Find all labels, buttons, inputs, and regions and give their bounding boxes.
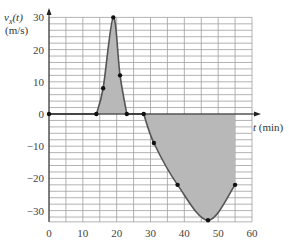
y-tick-label: −30: [27, 205, 45, 217]
data-point: [206, 218, 210, 222]
data-point: [118, 73, 122, 77]
x-axis-arrow-icon: [254, 112, 261, 117]
x-tick-label: 60: [247, 227, 259, 239]
data-point: [152, 141, 156, 145]
data-point: [142, 112, 146, 116]
x-tick-label: 30: [145, 227, 157, 239]
y-tick-label: −20: [27, 172, 45, 184]
data-point: [111, 15, 115, 19]
x-tick-label: 0: [46, 227, 52, 239]
y-tick-label: 20: [33, 44, 45, 56]
data-point: [125, 112, 129, 116]
y-tick-label: 30: [33, 11, 45, 23]
x-axis-label: t (min): [253, 121, 284, 134]
y-tick-label: −10: [27, 140, 45, 152]
y-tick-label: 10: [33, 76, 45, 88]
data-point: [101, 86, 105, 90]
x-tick-label: 20: [111, 227, 123, 239]
data-point: [47, 112, 51, 116]
y-axis-arrow-icon: [47, 8, 52, 15]
velocity-time-chart: 01020304050603020100−10−20−30 vx(t) (m/s…: [0, 0, 289, 242]
y-tick-label: 0: [39, 108, 45, 120]
x-tick-label: 10: [77, 227, 89, 239]
data-point: [94, 112, 98, 116]
data-point: [233, 183, 237, 187]
data-point: [175, 183, 179, 187]
x-tick-label: 50: [213, 227, 225, 239]
x-tick-label: 40: [179, 227, 191, 239]
y-axis-unit: (m/s): [5, 24, 29, 37]
